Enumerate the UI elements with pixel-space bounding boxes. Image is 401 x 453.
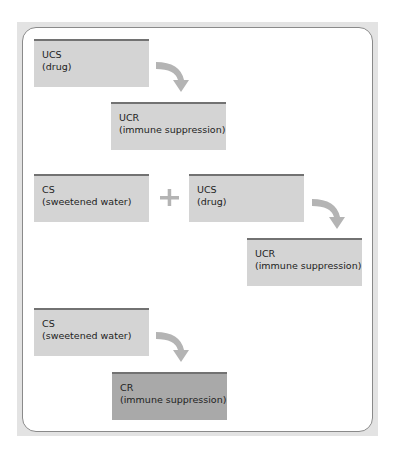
box-sublabel: (immune suppression): [119, 124, 226, 136]
ucr-immune-box-1: UCR (immune suppression): [111, 102, 226, 150]
curved-arrow-icon: [310, 195, 350, 231]
box-sublabel: (drug): [42, 61, 149, 73]
ucs-drug-box-2: UCS (drug): [189, 174, 304, 222]
cs-water-box-2: CS (sweetened water): [34, 174, 149, 222]
box-sublabel: (sweetened water): [42, 330, 149, 342]
cs-water-box-3: CS (sweetened water): [34, 308, 149, 356]
box-sublabel: (immune suppression): [120, 394, 227, 406]
box-sublabel: (sweetened water): [42, 196, 149, 208]
box-sublabel: (drug): [197, 196, 304, 208]
curved-arrow-icon: [154, 58, 194, 94]
box-label: UCR: [255, 248, 362, 260]
cr-immune-box-3: CR (immune suppression): [112, 372, 227, 420]
ucr-immune-box-2: UCR (immune suppression): [247, 238, 362, 286]
box-label: CS: [42, 184, 149, 196]
box-label: CS: [42, 318, 149, 330]
box-label: UCS: [197, 184, 304, 196]
ucs-drug-box-1: UCS (drug): [34, 39, 149, 87]
box-label: UCS: [42, 49, 149, 61]
curved-arrow-icon: [154, 328, 194, 364]
box-label: UCR: [119, 112, 226, 124]
plus-icon: [160, 189, 179, 206]
box-label: CR: [120, 382, 227, 394]
box-sublabel: (immune suppression): [255, 260, 362, 272]
